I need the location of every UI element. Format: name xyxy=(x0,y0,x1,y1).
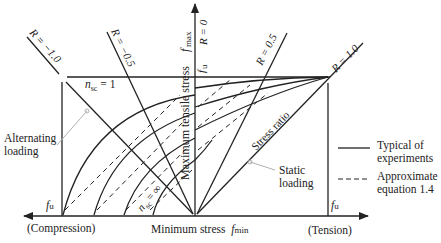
tension-label: (Tension) xyxy=(308,224,352,237)
fatigue-diagram: R = −1.0 R = −0.5 R = 0 R = 0.5 R = 1.0 … xyxy=(0,0,441,243)
compression-label: (Compression) xyxy=(27,222,95,235)
legend-solid-label: Typical of experiments xyxy=(377,139,433,165)
fmax-symbol: f max xyxy=(178,31,193,52)
fu-top-symbol: f u xyxy=(195,64,209,73)
nsc-one-label: nsc = 1 xyxy=(85,78,115,95)
alternating-loading-label: Alternating loading xyxy=(4,132,56,158)
approximate-lines xyxy=(65,80,268,210)
fu-left-label: fu xyxy=(46,199,54,213)
ratio-line-r-neg1-lower xyxy=(66,82,193,214)
svg-text:u: u xyxy=(199,64,209,69)
vertical-axis-label: Maximum tensile stress xyxy=(178,66,192,180)
label-r-neg05: R = −0.5 xyxy=(109,26,138,69)
label-stress-ratio: Stress ratio xyxy=(249,108,292,152)
label-r-05: R = 0.5 xyxy=(253,31,280,68)
label-r-1: R = 1.0 xyxy=(328,42,361,75)
static-loading-label: Static loading xyxy=(279,164,314,190)
nsc-infinity-label: n sc = ∞ xyxy=(134,182,165,215)
legend-dashed-label: Approximate equation 1.4 xyxy=(377,170,438,196)
svg-text:max: max xyxy=(183,31,193,47)
fu-right-label: fu xyxy=(331,199,339,213)
horizontal-axis-label: Minimum stress fmin xyxy=(151,223,248,237)
label-r-0: R = 0 xyxy=(197,19,209,46)
static-leader xyxy=(250,162,275,170)
